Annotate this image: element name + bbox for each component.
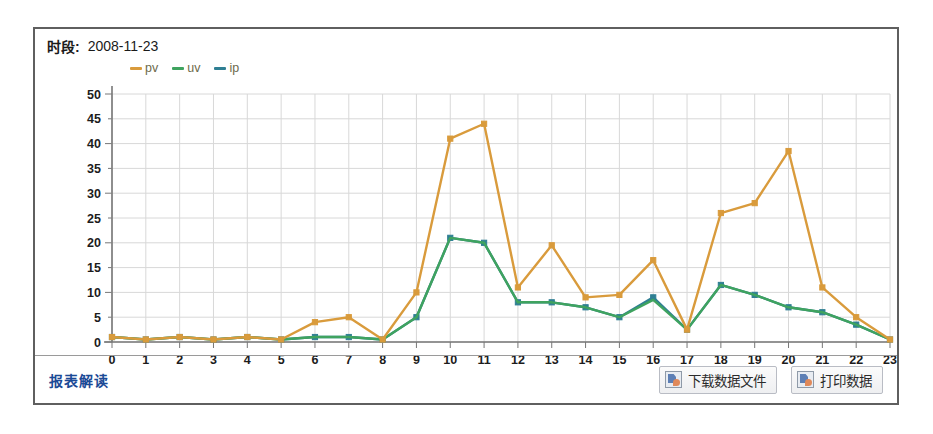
data-point-pv xyxy=(448,136,453,141)
data-point-pv xyxy=(279,337,284,342)
y-axis-tick-label: 15 xyxy=(87,261,101,275)
chart-gridlines: 0510152025303540455001234567891011121314… xyxy=(87,88,897,368)
print-data-icon xyxy=(797,371,814,388)
report-panel: 时段: 2008-11-23 pvuvip 051015202530354045… xyxy=(33,27,899,405)
download-data-button[interactable]: 下载数据文件 xyxy=(659,366,777,394)
data-point-pv xyxy=(380,337,385,342)
data-point-pv xyxy=(887,337,892,342)
y-axis-tick-label: 30 xyxy=(87,187,101,201)
data-point-pv xyxy=(684,327,689,332)
y-axis-tick-label: 50 xyxy=(87,88,101,102)
button-label: 下载数据文件 xyxy=(688,370,766,390)
data-point-pv xyxy=(651,258,656,263)
data-point-pv xyxy=(820,285,825,290)
data-point-pv xyxy=(617,292,622,297)
y-axis-tick-label: 5 xyxy=(94,311,101,325)
data-point-pv xyxy=(414,290,419,295)
data-point-pv xyxy=(211,337,216,342)
report-interpretation-link[interactable]: 报表解读 xyxy=(49,370,109,390)
chart-area: 0510152025303540455001234567891011121314… xyxy=(35,49,901,369)
data-point-pv xyxy=(752,201,757,206)
series-line-pv xyxy=(112,124,890,340)
y-axis-tick-label: 45 xyxy=(87,112,101,126)
data-point-pv xyxy=(312,320,317,325)
panel-footer: 报表解读 下载数据文件打印数据 xyxy=(35,355,897,403)
data-point-pv xyxy=(481,121,486,126)
data-point-pv xyxy=(245,334,250,339)
data-point-pv xyxy=(583,295,588,300)
data-point-pv xyxy=(854,315,859,320)
series-ip xyxy=(109,235,892,342)
data-point-pv xyxy=(177,334,182,339)
line-chart: 0510152025303540455001234567891011121314… xyxy=(35,49,901,369)
button-label: 打印数据 xyxy=(820,370,872,390)
series-line-ip xyxy=(112,238,890,340)
y-axis-tick-label: 35 xyxy=(87,162,101,176)
data-point-pv xyxy=(515,285,520,290)
data-point-pv xyxy=(109,334,114,339)
print-data-button[interactable]: 打印数据 xyxy=(791,366,883,394)
data-point-pv xyxy=(718,210,723,215)
data-point-pv xyxy=(143,337,148,342)
series-line-uv xyxy=(112,238,890,340)
y-axis-tick-label: 10 xyxy=(87,286,101,300)
data-point-pv xyxy=(786,148,791,153)
series-pv xyxy=(109,121,892,342)
footer-button-group: 下载数据文件打印数据 xyxy=(659,366,883,394)
data-point-pv xyxy=(549,243,554,248)
y-axis-tick-label: 0 xyxy=(94,336,101,350)
y-axis-tick-label: 25 xyxy=(87,212,101,226)
download-data-icon xyxy=(665,371,682,388)
y-axis-tick-label: 20 xyxy=(87,236,101,250)
y-axis-tick-label: 40 xyxy=(87,137,101,151)
series-uv xyxy=(112,238,890,340)
data-point-pv xyxy=(346,315,351,320)
